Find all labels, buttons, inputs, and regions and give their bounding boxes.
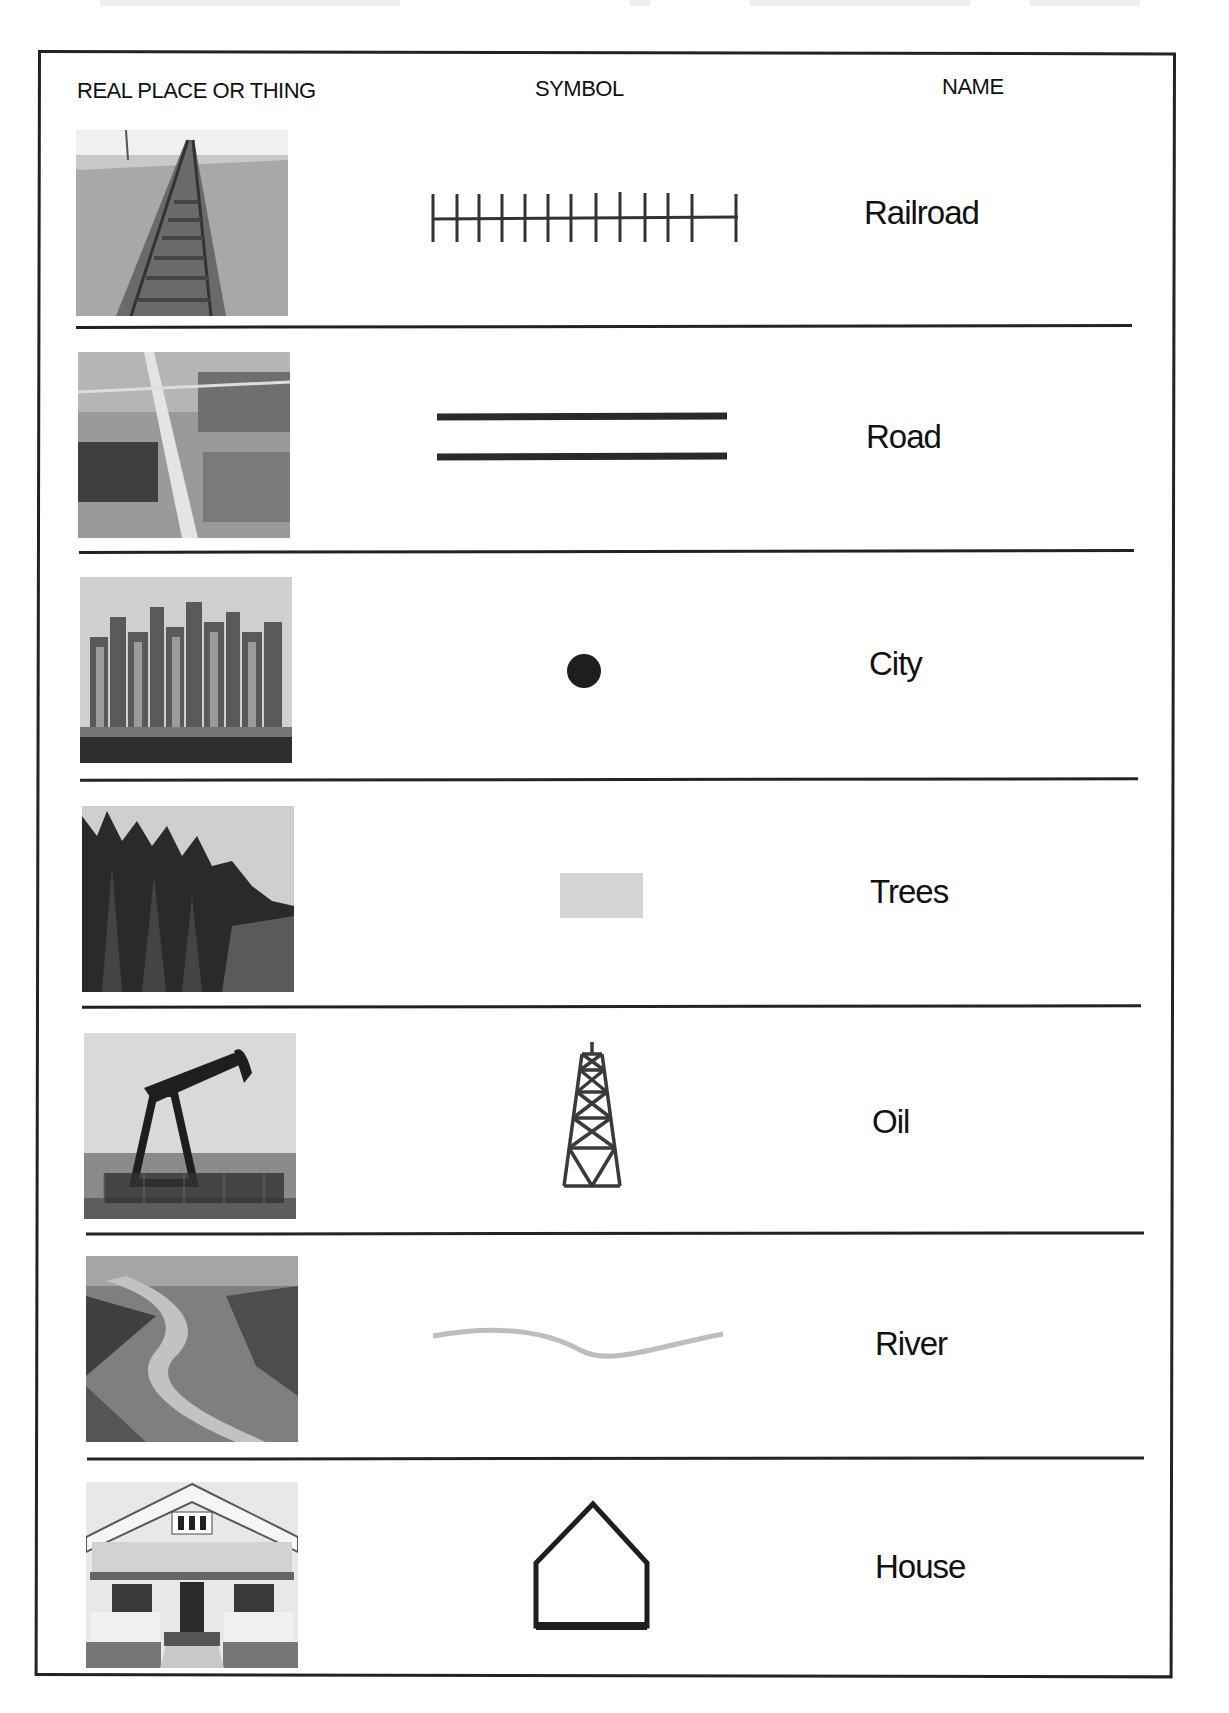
railroad-symbol [430,190,740,249]
river-wave-symbol [430,1318,726,1372]
header-symbol: SYMBOL [535,76,624,102]
city-dot-symbol [566,653,602,693]
oil-derrick-symbol [560,1040,624,1194]
header-name: NAME [942,74,1004,100]
house-photo [86,1482,298,1668]
name-road: Road [866,418,941,456]
house-outline-symbol [532,1500,652,1636]
oil-pump-photo [84,1033,296,1219]
name-river: River [875,1325,947,1363]
road-symbol [435,410,730,470]
aerial-road-photo [78,352,290,538]
city-skyline-photo [80,577,292,763]
railroad-tracks-photo [76,130,288,316]
name-house: House [875,1548,965,1586]
forest-photo [82,806,294,992]
cropped-header-text [90,0,1150,14]
river-valley-photo [86,1256,298,1442]
name-railroad: Railroad [864,194,979,232]
trees-rect-symbol [560,873,643,922]
header-real-place: REAL PLACE OR THING [77,78,316,104]
name-trees: Trees [870,873,948,911]
name-oil: Oil [872,1103,909,1141]
name-city: City [869,645,922,683]
